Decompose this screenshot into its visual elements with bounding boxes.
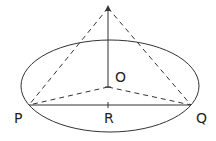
dashed-o-to-q: [108, 87, 191, 105]
label-r: R: [104, 110, 114, 126]
geometry-diagram: O P R Q: [0, 0, 216, 141]
label-o: O: [115, 69, 126, 85]
label-p: P: [14, 110, 22, 126]
label-q: Q: [196, 110, 207, 126]
dashed-o-to-p: [29, 87, 108, 105]
